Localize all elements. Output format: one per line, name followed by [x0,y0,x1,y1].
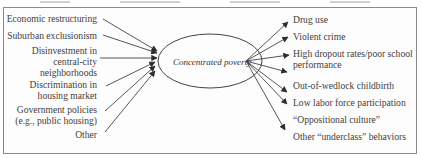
cause-arrows [100,19,157,132]
effect-oppositional-culture: “Oppositional culture” [293,114,380,125]
effect-violent-crime: Violent crime [293,31,345,42]
effect-arrows [246,22,289,130]
cause-government-policies: Government policies (e.g., public housin… [15,104,97,126]
cause-disinvestment: Disinvestment in central-city neighborho… [32,45,97,78]
center-node-label: Concentrated poverty [162,57,262,67]
cause-housing-discrimination: Discrimination in housing market [30,79,97,101]
effect-other-underclass: Other “underclass” behaviors [293,131,406,142]
effect-low-labor-force: Low labor force participation [293,97,406,108]
effect-dropout-rates: High dropout rates/poor school performan… [293,48,413,70]
cause-suburban-exclusionism: Suburban exclusionism [7,30,97,41]
cause-other: Other [75,129,97,140]
effect-drug-use: Drug use [293,14,328,25]
cause-economic-restructuring: Economic restructuring [7,13,97,24]
effect-out-of-wedlock: Out-of-wedlock childbirth [293,80,394,91]
